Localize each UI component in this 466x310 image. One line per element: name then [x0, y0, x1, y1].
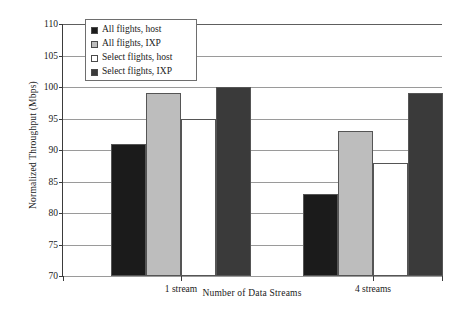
bar [111, 144, 146, 276]
x-tick-mark [181, 276, 182, 281]
y-tick-label: 90 [12, 145, 58, 155]
y-tick-mark [59, 213, 63, 214]
legend-item: All flights, host [91, 23, 196, 37]
legend-swatch-select-flights-ixp [91, 69, 98, 76]
y-tick-label: 110 [12, 19, 58, 29]
y-tick-mark [59, 87, 63, 88]
chart-legend: All flights, host All flights, IXP Selec… [85, 19, 197, 81]
bar [373, 163, 408, 276]
bar [181, 119, 216, 277]
legend-label: Select flights, IXP [102, 67, 172, 77]
legend-label: Select flights, host [102, 53, 172, 63]
legend-swatch-select-flights-host [91, 55, 98, 62]
y-tick-mark [59, 182, 63, 183]
legend-label: All flights, IXP [102, 39, 161, 49]
y-tick-mark [59, 24, 63, 25]
y-tick-mark [59, 245, 63, 246]
legend-item: Select flights, host [91, 51, 196, 65]
bar-chart-figure: Normalized Throughput (Mbps) 70758085909… [0, 0, 466, 310]
legend-swatch-all-flights-ixp [91, 41, 98, 48]
x-axis-end-tick [442, 276, 443, 281]
gridline [63, 119, 442, 120]
legend-item: Select flights, IXP [91, 65, 196, 79]
bar [408, 93, 443, 276]
x-axis-end-tick [63, 276, 64, 281]
bar [146, 93, 181, 276]
bar [303, 194, 338, 276]
legend-swatch-all-flights-host [91, 27, 98, 34]
x-axis-title: Number of Data Streams [62, 288, 442, 298]
y-tick-mark [59, 119, 63, 120]
x-tick-mark [373, 276, 374, 281]
bar [338, 131, 373, 276]
gridline [63, 276, 442, 277]
legend-item: All flights, IXP [91, 37, 196, 51]
y-tick-label: 105 [12, 51, 58, 61]
y-tick-mark [59, 150, 63, 151]
y-tick-label: 70 [12, 271, 58, 281]
y-tick-label: 75 [12, 240, 58, 250]
legend-label: All flights, host [102, 25, 161, 35]
y-tick-label: 80 [12, 208, 58, 218]
y-tick-mark [59, 56, 63, 57]
y-tick-label: 100 [12, 82, 58, 92]
gridline [63, 87, 442, 88]
y-tick-label: 85 [12, 177, 58, 187]
bar [216, 87, 251, 276]
y-tick-label: 95 [12, 114, 58, 124]
